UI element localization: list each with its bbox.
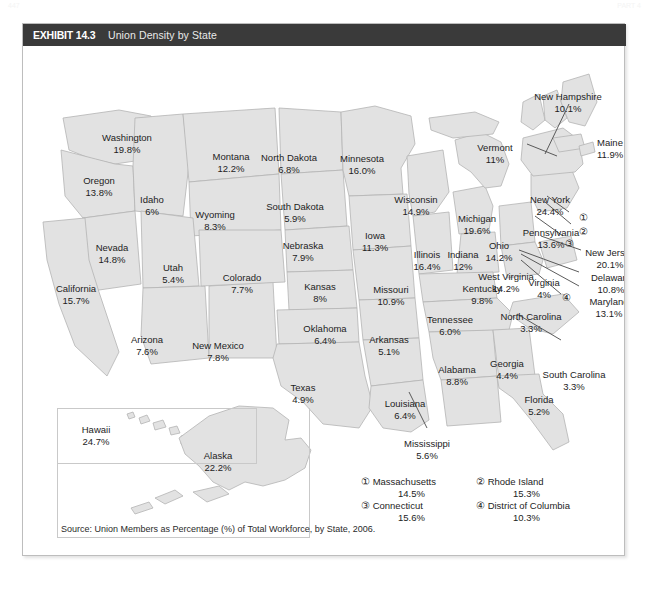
state-value: 12.2% — [213, 163, 250, 175]
state-name: Maine — [597, 137, 623, 149]
state-label-nebraska: Nebraska7.9% — [283, 240, 324, 263]
state-name: Illinois — [414, 249, 441, 261]
legend-row: ③ Connecticut 15.6% ④ District of Columb… — [361, 500, 591, 524]
state-name: Missouri — [373, 284, 408, 296]
state-value: 24.4% — [530, 206, 570, 218]
source-note: Source: Union Members as Percentage (%) … — [61, 524, 375, 534]
legend-item: ② Rhode Island 15.3% — [476, 476, 591, 500]
state-value: 10.1% — [534, 103, 602, 115]
exhibit-tag: EXHIBIT 14.3 — [33, 29, 95, 41]
state-value: 22.2% — [204, 462, 233, 474]
state-name: Hawaii — [82, 424, 111, 436]
state-value: 14.8% — [96, 254, 129, 266]
state-value: 6.8% — [261, 164, 317, 176]
state-value: 4.9% — [291, 394, 316, 406]
state-value: 5.2% — [524, 406, 553, 418]
marker-1-icon: ① — [579, 212, 588, 224]
state-name: Utah — [162, 262, 184, 274]
state-value: 7.6% — [131, 346, 163, 358]
state-name: Arizona — [131, 334, 163, 346]
state-value: 11.3% — [362, 242, 388, 254]
state-value: 10.9% — [373, 296, 408, 308]
state-label-michigan: Michigan19.6% — [458, 213, 496, 236]
legend-marker-icon: ② — [476, 476, 485, 487]
legend-item: ③ Connecticut 15.6% — [361, 500, 476, 524]
marker-2-icon: ② — [579, 226, 588, 238]
state-value: 16.0% — [340, 165, 384, 177]
state-name: Oklahoma — [303, 323, 346, 335]
state-label-illinois: Illinois16.4% — [414, 249, 441, 272]
state-label-newyork: New York24.4% — [530, 194, 570, 217]
state-value: 13.1% — [589, 308, 624, 320]
state-value: 6% — [140, 206, 164, 218]
state-name: Delaware — [591, 272, 624, 284]
page-part-right: PART 4 — [617, 2, 641, 9]
state-label-louisiana: Louisiana6.4% — [385, 398, 426, 421]
state-label-newmexico: New Mexico7.8% — [192, 340, 244, 363]
state-label-missouri: Missouri10.9% — [373, 284, 408, 307]
state-label-newjersey: New Jersey20.1% — [585, 247, 624, 270]
state-value: 6.4% — [303, 335, 346, 347]
state-label-delaware: Delaware10.8% — [591, 272, 624, 295]
page-number-left: 447 — [8, 2, 20, 9]
state-name: California — [56, 283, 96, 295]
legend-item: ④ District of Columbia 10.3% — [476, 500, 591, 524]
state-name: Washington — [102, 132, 152, 144]
state-label-oklahoma: Oklahoma6.4% — [303, 323, 346, 346]
state-label-arkansas: Arkansas5.1% — [369, 334, 409, 357]
state-value: 6.0% — [427, 326, 473, 338]
state-label-texas: Texas4.9% — [291, 382, 316, 405]
state-name: Nebraska — [283, 240, 324, 252]
state-name: Arkansas — [369, 334, 409, 346]
state-name: Michigan — [458, 213, 496, 225]
state-value: 24.7% — [82, 436, 111, 448]
state-name: Ohio — [486, 240, 513, 252]
state-label-oregon: Oregon13.8% — [83, 175, 115, 198]
state-value: 19.8% — [102, 144, 152, 156]
state-value: 14.2% — [478, 283, 534, 295]
state-name: Tennessee — [427, 314, 473, 326]
state-value: 7.9% — [283, 252, 324, 264]
state-value: 7.7% — [223, 284, 262, 296]
state-value: 19.6% — [458, 225, 496, 237]
state-name: Pennsylvania — [523, 227, 580, 239]
state-name: New Mexico — [192, 340, 244, 352]
state-name: South Carolina — [543, 369, 606, 381]
state-name: Vermont — [477, 142, 512, 154]
state-label-wyoming: Wyoming8.3% — [195, 209, 235, 232]
state-label-washington: Washington19.8% — [102, 132, 152, 155]
state-label-alaska: Alaska22.2% — [204, 450, 233, 473]
legend-label: District of Columbia — [488, 500, 570, 511]
state-name: Montana — [213, 151, 250, 163]
state-label-montana: Montana12.2% — [213, 151, 250, 174]
state-value: 10.8% — [591, 284, 624, 296]
legend-value: 10.3% — [476, 512, 591, 524]
state-name: Texas — [291, 382, 316, 394]
legend-row: ① Massachusetts 14.5% ② Rhode Island 15.… — [361, 476, 591, 500]
state-label-southcarolina: South Carolina3.3% — [543, 369, 606, 392]
state-value: 20.1% — [585, 259, 624, 271]
state-name: Maryland — [589, 296, 624, 308]
state-label-arizona: Arizona7.6% — [131, 334, 163, 357]
state-value: 11% — [477, 154, 512, 166]
state-value: 13.8% — [83, 187, 115, 199]
state-value: 7.8% — [192, 352, 244, 364]
state-value: 5.6% — [404, 450, 450, 462]
exhibit-frame: EXHIBIT 14.3 Union Density by State — [22, 23, 625, 556]
page-header: 447 PART 4 — [0, 2, 649, 16]
state-value: 3.3% — [500, 323, 561, 335]
state-name: South Dakota — [266, 201, 324, 213]
state-label-idaho: Idaho6% — [140, 194, 164, 217]
state-label-vermont: Vermont11% — [477, 142, 512, 165]
state-value: 9.8% — [462, 295, 501, 307]
state-name: New Jersey — [585, 247, 624, 259]
state-label-hawaii: Hawaii24.7% — [82, 424, 111, 447]
legend-value: 14.5% — [361, 488, 476, 500]
state-name: Alabama — [438, 364, 476, 376]
state-label-colorado: Colorado7.7% — [223, 272, 262, 295]
state-name: Iowa — [362, 230, 388, 242]
state-label-minnesota: Minnesota16.0% — [340, 153, 384, 176]
state-value: 15.7% — [56, 295, 96, 307]
state-name: Louisiana — [385, 398, 426, 410]
state-name: Nevada — [96, 242, 129, 254]
